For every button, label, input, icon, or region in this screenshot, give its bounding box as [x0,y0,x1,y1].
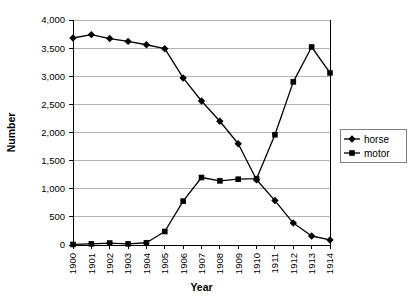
x-axis-tick-label: 1909 [233,253,244,274]
data-point [272,132,278,138]
chart-canvas: 05001,0001,5002,0002,5003,0003,5004,000N… [0,0,417,298]
data-point [125,241,131,247]
data-point [143,41,150,48]
gridlines [73,20,330,217]
x-axis-tick-label: 1908 [214,253,225,274]
x-axis-tick-label: 1906 [178,253,189,274]
x-axis-tick-label: 1904 [141,253,152,274]
y-axis: 05001,0001,5002,0002,5003,0003,5004,000 [41,14,73,250]
x-axis-title: Year [190,281,212,293]
data-point [217,178,223,184]
data-point [106,35,113,42]
y-axis-title: Number [5,113,17,153]
x-axis-tick-label: 1900 [67,253,78,274]
x-axis-tick-label: 1912 [288,253,299,274]
y-axis-tick-label: 500 [49,211,65,222]
line-chart: 05001,0001,5002,0002,5003,0003,5004,000N… [0,0,417,298]
x-axis-tick-label: 1913 [306,253,317,274]
x-axis-tick-label: 1902 [104,253,115,274]
data-point [162,229,168,235]
data-point [254,176,260,182]
data-point [290,79,296,85]
series-line [73,35,330,240]
data-point [309,44,315,50]
y-axis-tick-label: 2,500 [41,99,65,110]
x-axis-tick-label: 1907 [196,253,207,274]
data-point [326,236,333,243]
legend-label-horse: horse [364,134,389,145]
data-point [161,45,168,52]
data-point [89,241,95,247]
data-point [70,242,76,248]
data-point [327,70,333,76]
series-horse [69,31,333,244]
x-axis-tick-label: 1910 [251,253,262,274]
chart-legend: horsemotor [340,129,406,162]
y-axis-tick-label: 0 [60,239,65,250]
data-point [144,240,150,246]
x-axis-tick-label: 1905 [159,253,170,274]
x-axis-tick-label: 1903 [122,253,133,274]
y-axis-tick-label: 1,500 [41,155,65,166]
legend-label-motor: motor [364,148,390,159]
data-point [199,175,205,181]
x-axis: 1900190119021903190419051906190719081909… [67,245,335,274]
data-point [88,31,95,38]
y-axis-tick-label: 3,000 [41,71,65,82]
data-point [107,240,113,246]
x-axis-tick-label: 1901 [86,253,97,274]
x-axis-tick-label: 1914 [324,253,335,274]
y-axis-tick-label: 1,000 [41,183,65,194]
y-axis-tick-label: 3,500 [41,43,65,54]
data-point [235,176,241,182]
data-point [124,38,131,45]
y-axis-tick-label: 2,000 [41,127,65,138]
x-axis-tick-label: 1911 [269,253,280,273]
legend-swatch-marker [349,150,355,156]
data-point [180,198,186,204]
data-point [69,34,76,41]
y-axis-tick-label: 4,000 [41,14,65,25]
